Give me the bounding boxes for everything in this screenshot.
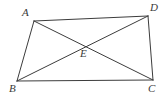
vertex-label-b: B [9,83,16,94]
vertex-label-c: C [148,83,155,94]
side-AD [34,16,148,21]
diagonal-AC [34,21,153,80]
vertex-label-a: A [22,7,29,18]
side-BA [17,21,34,81]
side-CB [17,80,153,81]
geometry-figure: A B C D E [0,0,168,98]
vertex-label-d: D [150,2,158,13]
side-DC [148,16,153,80]
vertex-label-e: E [80,48,87,59]
